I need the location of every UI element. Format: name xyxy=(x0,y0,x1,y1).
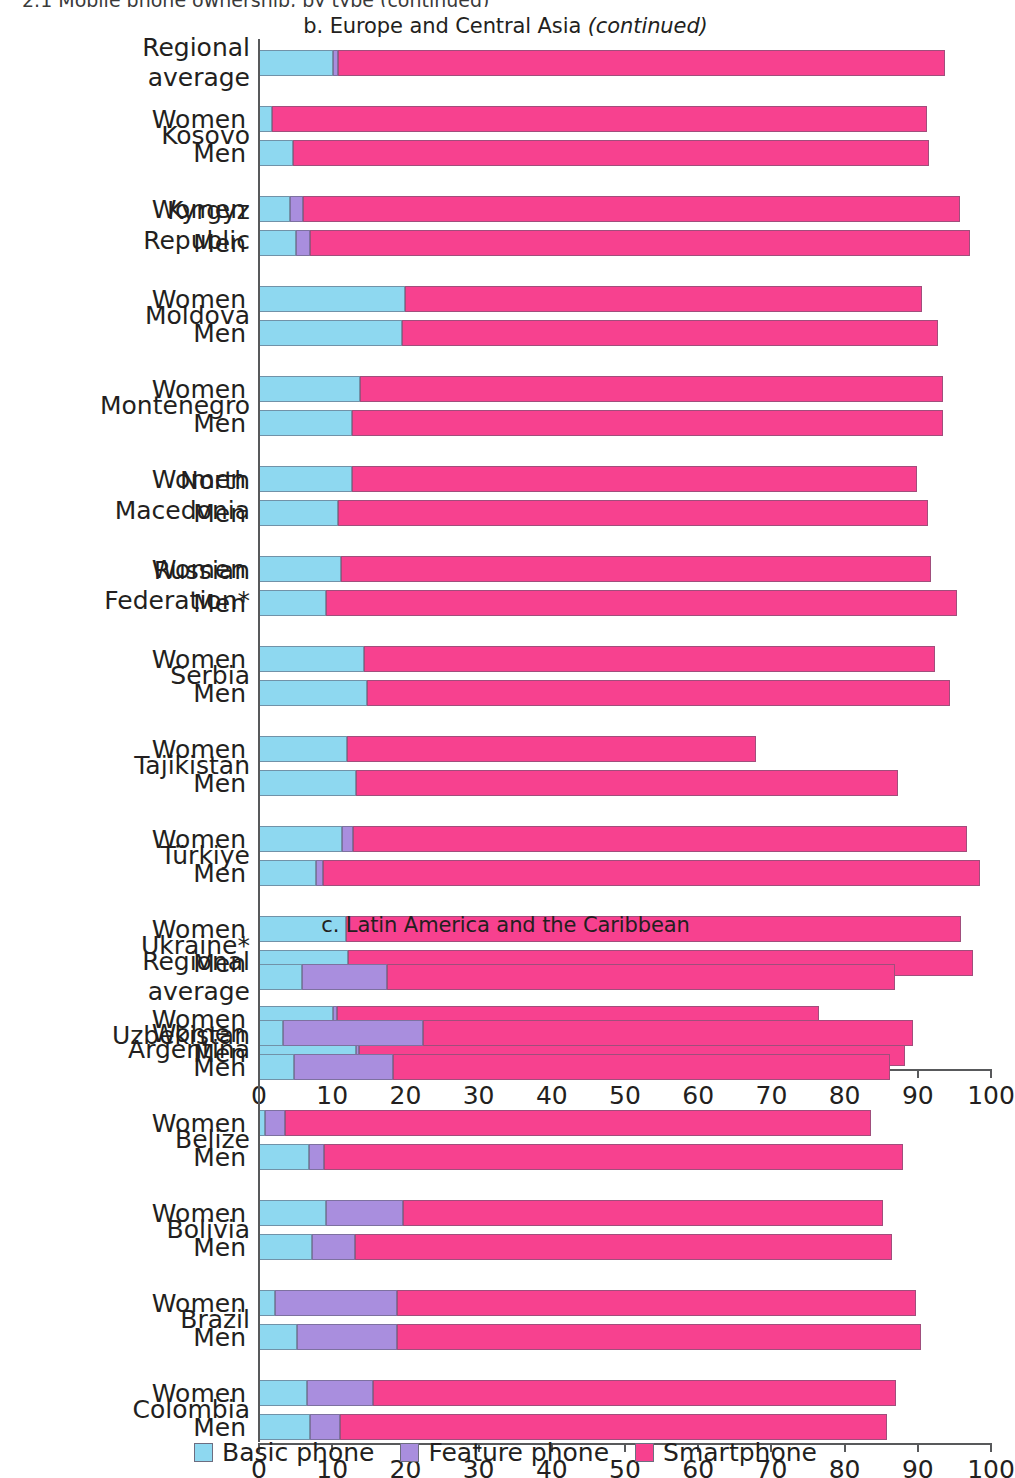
bar-segment-smart xyxy=(356,770,898,796)
stacked-bar xyxy=(258,230,970,256)
bar-segment-feature xyxy=(310,1414,340,1440)
country-label: Kyrgyz Republic xyxy=(10,196,250,256)
stacked-bar xyxy=(258,860,980,886)
stacked-bar xyxy=(258,500,928,526)
chart-legend: Basic phoneFeature phoneSmartphone xyxy=(0,1438,1011,1467)
stacked-bar xyxy=(258,1380,896,1406)
bar-segment-basic xyxy=(258,320,402,346)
legend-label: Smartphone xyxy=(663,1438,817,1467)
bar-segment-basic xyxy=(258,500,338,526)
bar-segment-basic xyxy=(258,826,342,852)
bar-segment-smart xyxy=(272,106,927,132)
stacked-bar xyxy=(258,106,927,132)
legend-item: Basic phone xyxy=(194,1438,374,1467)
bar-segment-smart xyxy=(405,286,922,312)
stacked-bar xyxy=(258,826,967,852)
bar-segment-smart xyxy=(402,320,938,346)
bar-segment-basic xyxy=(258,140,293,166)
bar-segment-smart xyxy=(285,1110,871,1136)
country-label: Regional average xyxy=(10,33,250,93)
legend-label: Feature phone xyxy=(428,1438,609,1467)
bar-segment-feature xyxy=(297,1324,397,1350)
country-label: Kosovo xyxy=(10,121,250,151)
bar-segment-feature xyxy=(296,230,310,256)
bar-segment-smart xyxy=(347,736,755,762)
stacked-bar xyxy=(258,376,943,402)
country-label: Bolivia xyxy=(10,1215,250,1245)
stacked-bar xyxy=(258,286,922,312)
stacked-bar xyxy=(258,50,945,76)
bar-segment-basic xyxy=(258,646,364,672)
stacked-bar xyxy=(258,556,931,582)
bar-segment-basic xyxy=(258,1234,312,1260)
stacked-bar xyxy=(258,1234,892,1260)
country-label: Tajikistan xyxy=(10,751,250,781)
country-label: Regional average xyxy=(10,947,250,1007)
legend-item: Smartphone xyxy=(635,1438,817,1467)
bar-segment-smart xyxy=(364,646,935,672)
bar-segment-basic xyxy=(258,106,272,132)
bar-segment-smart xyxy=(341,556,931,582)
bar-segment-basic xyxy=(258,410,352,436)
bar-segment-basic xyxy=(258,1200,326,1226)
legend-item: Feature phone xyxy=(400,1438,609,1467)
bar-segment-basic xyxy=(258,1324,297,1350)
country-label: Belize xyxy=(10,1125,250,1155)
country-label: Brazil xyxy=(10,1305,250,1335)
country-label: Argentina xyxy=(10,1035,250,1065)
bar-segment-smart xyxy=(403,1200,883,1226)
stacked-bar xyxy=(258,736,756,762)
country-label: Montenegro xyxy=(10,391,250,421)
stacked-bar xyxy=(258,1324,921,1350)
bar-segment-basic xyxy=(258,770,356,796)
bar-segment-feature xyxy=(294,1054,393,1080)
bar-segment-feature xyxy=(265,1110,285,1136)
panel-title-note: (continued) xyxy=(588,14,708,38)
bar-segment-basic xyxy=(258,230,296,256)
panel-title-main: c. Latin America and the Caribbean xyxy=(321,913,690,937)
bar-segment-smart xyxy=(367,680,950,706)
country-label: Türkiye xyxy=(10,841,250,871)
stacked-bar xyxy=(258,590,957,616)
country-label: North Macedonia xyxy=(10,466,250,526)
bar-segment-smart xyxy=(326,590,957,616)
bar-segment-basic xyxy=(258,376,360,402)
legend-label: Basic phone xyxy=(222,1438,374,1467)
legend-swatch-icon xyxy=(194,1443,213,1462)
stacked-bar xyxy=(258,320,938,346)
bar-segment-feature xyxy=(290,196,302,222)
bar-segment-basic xyxy=(258,736,347,762)
bar-segment-basic xyxy=(258,286,405,312)
legend-swatch-icon xyxy=(635,1443,654,1462)
bar-segment-basic xyxy=(258,50,333,76)
bar-segment-smart xyxy=(324,1144,903,1170)
stacked-bar xyxy=(258,410,943,436)
stacked-bar xyxy=(258,1414,887,1440)
stacked-bar xyxy=(258,1020,913,1046)
country-label: Russian Federation* xyxy=(10,556,250,616)
bar-segment-basic xyxy=(258,556,341,582)
bar-segment-feature xyxy=(342,826,353,852)
stacked-bar xyxy=(258,196,960,222)
bar-segment-basic xyxy=(258,1414,310,1440)
panel-title: c. Latin America and the Caribbean xyxy=(0,913,1011,937)
bar-segment-smart xyxy=(397,1324,921,1350)
bar-segment-feature xyxy=(307,1380,373,1406)
bar-segment-feature xyxy=(312,1234,355,1260)
stacked-bar xyxy=(258,770,898,796)
legend-swatch-icon xyxy=(400,1443,419,1462)
country-label: Moldova xyxy=(10,301,250,331)
stacked-bar xyxy=(258,680,950,706)
bar-segment-smart xyxy=(353,826,966,852)
stacked-bar xyxy=(258,964,895,990)
bar-segment-smart xyxy=(423,1020,913,1046)
bar-segment-basic xyxy=(258,1054,294,1080)
stacked-bar xyxy=(258,646,935,672)
bar-segment-basic xyxy=(258,860,316,886)
panel-title-main: b. Europe and Central Asia xyxy=(303,14,588,38)
stacked-bar xyxy=(258,140,929,166)
bar-segment-basic xyxy=(258,1290,275,1316)
bar-segment-basic xyxy=(258,1144,309,1170)
bar-segment-smart xyxy=(338,50,946,76)
bar-segment-feature xyxy=(316,860,323,886)
